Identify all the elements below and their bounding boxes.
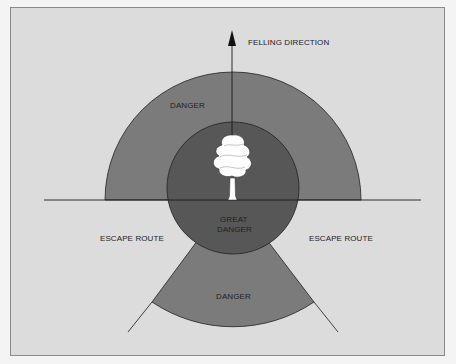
danger-front-label: DANGER — [170, 101, 205, 111]
great-danger-label-2: DANGER — [217, 225, 252, 235]
escape-route-right-label: ESCAPE ROUTE — [309, 234, 373, 244]
danger-back-label: DANGER — [216, 292, 251, 302]
felling-direction-label: FELLING DIRECTION — [248, 38, 329, 48]
felling-arrow-icon — [228, 30, 236, 46]
escape-route-left-label: ESCAPE ROUTE — [100, 234, 164, 244]
felling-zones-diagram — [0, 0, 456, 364]
escape-line-right — [314, 302, 338, 332]
great-danger-label-1: GREAT — [220, 215, 247, 225]
escape-line-left — [128, 302, 152, 332]
